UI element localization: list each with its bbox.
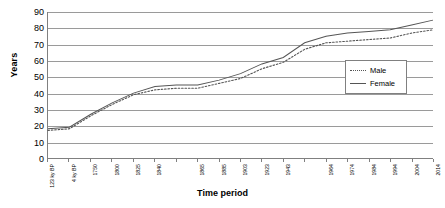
- legend-label-female: Female: [370, 77, 395, 90]
- x-tick-label: 1825: [135, 164, 141, 176]
- x-tick-label: 1964: [328, 164, 334, 176]
- y-tick-label: 80: [34, 23, 44, 33]
- x-tick: [133, 159, 134, 162]
- x-tick: [111, 159, 112, 162]
- chart-figure: Years 0102030405060708090 123 ky BP4 ky …: [0, 0, 445, 208]
- x-tick-label: 1840: [156, 164, 162, 176]
- x-tick: [154, 159, 155, 162]
- y-tick-label: 50: [34, 72, 44, 82]
- x-axis-title: Time period: [0, 188, 445, 198]
- x-tick-label: 2014: [435, 164, 441, 176]
- x-tick-label: 1750: [92, 164, 98, 176]
- x-tick-label: 2004: [414, 164, 420, 176]
- x-tick-label: 123 ky BP: [49, 164, 55, 188]
- x-tick: [68, 159, 69, 162]
- y-tick-label: 40: [34, 89, 44, 99]
- y-tick-label: 70: [34, 40, 44, 50]
- x-tick-label: 1885: [221, 164, 227, 176]
- x-tick: [197, 159, 198, 162]
- y-tick-label: 0: [39, 154, 44, 164]
- y-tick-label: 30: [34, 105, 44, 115]
- chart-legend: Male Female: [345, 60, 407, 94]
- y-tick-label: 90: [34, 7, 44, 17]
- x-tick: [390, 159, 391, 162]
- y-axis-title: Years: [9, 35, 19, 95]
- y-tick-label: 60: [34, 56, 44, 66]
- legend-item-male: Male: [350, 64, 402, 77]
- x-tick: [176, 159, 177, 162]
- y-tick-label: 20: [34, 121, 44, 131]
- x-tick: [326, 159, 327, 162]
- x-tick: [369, 159, 370, 162]
- x-tick: [219, 159, 220, 162]
- x-tick: [261, 159, 262, 162]
- x-tick: [347, 159, 348, 162]
- x-tick-label: 1984: [371, 164, 377, 176]
- solid-line-key: [350, 83, 366, 85]
- x-tick: [304, 159, 305, 162]
- y-tick-label: 10: [34, 138, 44, 148]
- dotted-line-key: [350, 70, 366, 72]
- x-tick: [240, 159, 241, 162]
- x-tick: [412, 159, 413, 162]
- x-tick-label: 4 ky BP: [71, 164, 77, 182]
- x-tick-label: 1994: [392, 164, 398, 176]
- x-tick: [90, 159, 91, 162]
- x-tick: [283, 159, 284, 162]
- legend-label-male: Male: [370, 64, 386, 77]
- x-tick-label: 1800: [114, 164, 120, 176]
- x-tick-label: 1974: [349, 164, 355, 176]
- x-tick-label: 1943: [285, 164, 291, 176]
- legend-item-female: Female: [350, 77, 402, 90]
- x-tick: [433, 159, 434, 162]
- x-tick-label: 1923: [264, 164, 270, 176]
- x-tick: [47, 159, 48, 162]
- x-tick-label: 1865: [199, 164, 205, 176]
- x-tick-label: 1903: [242, 164, 248, 176]
